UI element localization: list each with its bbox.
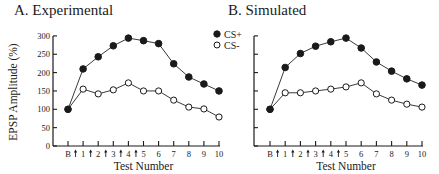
open-data-point (140, 88, 146, 94)
y-tick-label: 100 (37, 104, 50, 114)
open-data-point (373, 91, 379, 97)
open-data-point (419, 104, 425, 110)
filled-data-point (80, 66, 87, 73)
x-tick-label: 6 (156, 149, 160, 159)
x-tick-label: B (267, 149, 273, 159)
filled-data-point (343, 35, 350, 42)
open-data-point (156, 88, 162, 94)
filled-data-point (388, 68, 395, 75)
x-tick-label: 6 (359, 149, 363, 159)
x-tick-label: 5 (344, 149, 348, 159)
filled-data-point (216, 88, 223, 95)
training-arrowhead-icon (74, 150, 77, 153)
open-data-point (404, 101, 410, 107)
x-tick-label: 7 (374, 149, 378, 159)
legend: CS+ CS- (214, 29, 242, 51)
y-tick-label: 50 (42, 123, 51, 133)
x-tick-label: 8 (389, 149, 393, 159)
filled-data-point (312, 43, 319, 50)
filled-data-point (65, 106, 72, 113)
legend-label-cs-plus: CS+ (224, 29, 242, 40)
open-data-point (328, 86, 334, 92)
training-arrowhead-icon (337, 150, 340, 153)
chart-canvas: EPSP Amplitude (%) 050100150200250300B12… (0, 0, 439, 174)
legend-open-circle-icon (214, 42, 220, 48)
series-line-cs-plus (68, 38, 219, 109)
filled-data-point (140, 37, 147, 44)
filled-data-point (170, 60, 177, 67)
filled-data-point (110, 43, 117, 50)
training-arrowhead-icon (104, 150, 107, 153)
open-data-point (80, 86, 86, 92)
training-arrowhead-icon (322, 150, 325, 153)
training-arrowhead-icon (276, 150, 279, 153)
filled-data-point (201, 81, 208, 88)
filled-data-point (125, 35, 132, 42)
open-data-point (297, 90, 303, 96)
y-tick-label: 300 (37, 31, 50, 41)
x-tick-label: 2 (298, 149, 302, 159)
legend-filled-circle-icon (214, 31, 220, 37)
training-arrowhead-icon (291, 150, 294, 153)
filled-data-point (328, 38, 335, 45)
filled-data-point (155, 40, 162, 47)
x-tick-label: 5 (141, 149, 145, 159)
x-axis-label: Test Number (316, 160, 376, 172)
x-tick-label: B (65, 149, 71, 159)
y-axis-label: EPSP Amplitude (%) (7, 43, 20, 140)
open-data-point (389, 97, 395, 103)
x-tick-label: 3 (313, 149, 317, 159)
training-arrowhead-icon (119, 150, 122, 153)
filled-data-point (373, 59, 380, 66)
x-tick-label: 4 (126, 149, 131, 159)
filled-data-point (358, 45, 365, 52)
x-tick-label: 3 (111, 149, 115, 159)
x-tick-label: 10 (418, 149, 427, 159)
open-data-point (110, 87, 116, 93)
legend-label-cs-minus: CS- (224, 40, 240, 51)
filled-data-point (297, 50, 304, 57)
open-data-point (125, 80, 131, 86)
filled-data-point (267, 106, 274, 113)
y-tick-label: 200 (37, 68, 50, 78)
training-arrowhead-icon (134, 150, 137, 153)
filled-data-point (186, 74, 193, 81)
filled-data-point (282, 64, 289, 71)
panel-b-plot: B12345678910Test Number (254, 35, 426, 172)
x-axis-label: Test Number (114, 160, 174, 172)
x-tick-label: 10 (215, 149, 224, 159)
x-tick-label: 4 (329, 149, 334, 159)
open-data-point (216, 114, 222, 120)
open-data-point (201, 106, 207, 112)
open-data-point (186, 104, 192, 110)
x-tick-label: 1 (283, 149, 287, 159)
filled-data-point (419, 82, 426, 89)
training-arrowhead-icon (306, 150, 309, 153)
x-tick-label: 9 (202, 149, 206, 159)
x-tick-label: 8 (187, 149, 191, 159)
open-data-point (343, 84, 349, 90)
filled-data-point (404, 76, 411, 83)
open-data-point (358, 80, 364, 86)
y-tick-label: 150 (37, 86, 50, 96)
open-data-point (282, 90, 288, 96)
panel-a-plot: 050100150200250300B12345678910Test Numbe… (37, 31, 223, 172)
y-tick-label: 250 (37, 49, 50, 59)
open-data-point (171, 97, 177, 103)
x-tick-label: 7 (172, 149, 176, 159)
training-arrowhead-icon (89, 150, 92, 153)
x-tick-label: 9 (405, 149, 409, 159)
series-line-cs-plus (270, 38, 422, 109)
x-tick-label: 2 (96, 149, 100, 159)
figure: A. Experimental B. Simulated EPSP Amplit… (0, 0, 439, 174)
open-data-point (95, 91, 101, 97)
y-tick-label: 0 (46, 141, 50, 151)
x-tick-label: 1 (81, 149, 85, 159)
filled-data-point (95, 54, 102, 61)
open-data-point (313, 88, 319, 94)
